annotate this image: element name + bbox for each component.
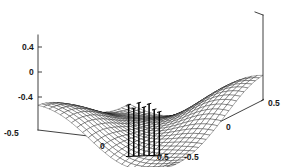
stem-cap [142, 106, 146, 107]
back-right-top-edge [255, 12, 263, 15]
x-tick-label-0: -0.5 [4, 128, 19, 138]
x-tick-label-2: 0.5 [157, 152, 169, 162]
y-tick-label-1: 0 [226, 122, 231, 132]
y-tick-label-0: -0.5 [184, 152, 199, 162]
stem-cap [137, 102, 141, 103]
x-tick-label-1: 0 [100, 141, 105, 151]
stem-cap [147, 103, 151, 104]
surface-plot-3d: 0.4 0 -0.4 -0.5 0 0.5 -0.5 0 0.5 [0, 0, 294, 167]
stem-cap [152, 109, 156, 110]
z-tick-label-1: 0 [29, 67, 34, 77]
z-tick-label-2: -0.4 [18, 92, 33, 102]
figure-canvas: 0.4 0 -0.4 -0.5 0 0.5 -0.5 0 0.5 [0, 0, 294, 167]
z-tick-label-0: 0.4 [22, 42, 34, 52]
y-tick-label-2: 0.5 [268, 98, 280, 108]
stem-cap [157, 111, 161, 112]
